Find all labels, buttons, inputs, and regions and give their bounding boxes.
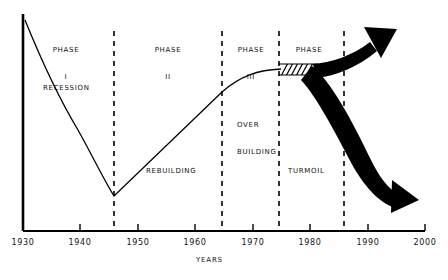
x-tick-label-1980: 1980 xyxy=(290,238,330,247)
annotation-turmoil: TURMOIL xyxy=(288,167,325,176)
x-tick-label-2000: 2000 xyxy=(405,238,445,247)
x-tick-label-1950: 1950 xyxy=(118,238,158,247)
annotation-recession: RECESSION xyxy=(43,84,90,93)
annotation-overbuilding-line1: OVER xyxy=(237,121,277,130)
phase-label-4-line1: PHASE xyxy=(281,46,337,55)
x-tick-label-1970: 1970 xyxy=(233,238,273,247)
x-tick-label-1940: 1940 xyxy=(60,238,100,247)
annotation-overbuilding-line2: BUILDING xyxy=(237,148,277,157)
phase-label-1-line2: I xyxy=(38,73,94,82)
phase-label-1-line1: PHASE xyxy=(38,46,94,55)
phase-label-4: PHASE IV xyxy=(281,28,337,100)
x-axis-title: YEARS xyxy=(196,256,223,264)
chart-container: PHASE I PHASE II PHASE III PHASE IV RECE… xyxy=(0,0,448,280)
phase-label-2: PHASE II xyxy=(140,28,196,100)
x-axis-ticks xyxy=(23,224,425,231)
annotation-overbuilding: OVER BUILDING xyxy=(237,103,277,175)
phase-label-3-line1: PHASE xyxy=(223,46,279,55)
phase-label-3: PHASE III xyxy=(223,28,279,100)
phase-label-2-line2: II xyxy=(140,73,196,82)
phase-label-4-line2: IV xyxy=(281,73,337,82)
x-tick-label-1990: 1990 xyxy=(348,238,388,247)
phase-label-3-line2: III xyxy=(223,73,279,82)
x-tick-label-1930: 1930 xyxy=(3,238,43,247)
phase-label-2-line1: PHASE xyxy=(140,46,196,55)
x-tick-label-1960: 1960 xyxy=(175,238,215,247)
annotation-rebuilding: REBUILDING xyxy=(146,167,196,176)
